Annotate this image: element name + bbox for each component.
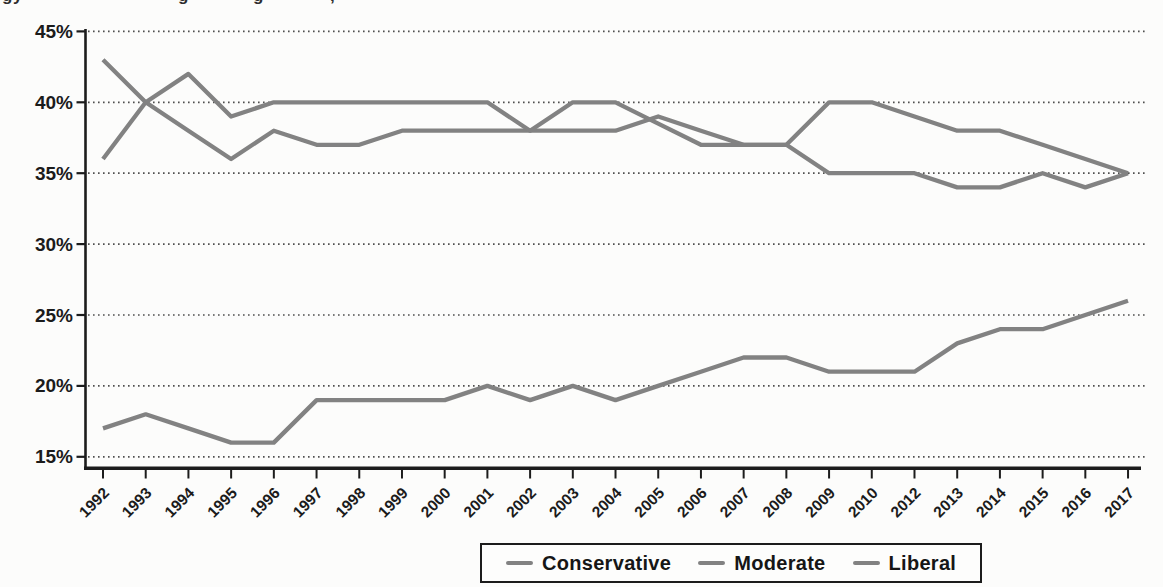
x-tick-label: 2007	[716, 484, 752, 520]
x-tick-label: 2010	[844, 484, 880, 520]
legend-line-swatch-icon	[506, 561, 533, 565]
x-tick-label: 1993	[118, 484, 155, 521]
y-tick-label: 35%	[35, 163, 73, 184]
legend-line-swatch-icon	[853, 561, 880, 565]
ideology-trend-figure: gygg, 45%40%35%30%25%20%15%1992199319941…	[0, 0, 1163, 587]
x-tick-label: 2016	[1058, 484, 1095, 521]
y-tick-label: 30%	[35, 234, 73, 255]
x-tick-label: 1999	[375, 484, 412, 521]
chart-legend: ConservativeModerateLiberal	[480, 543, 982, 583]
y-tick-label: 20%	[35, 375, 73, 396]
y-tick-label: 40%	[35, 92, 73, 113]
x-tick-label: 1996	[247, 484, 284, 521]
x-tick-label: 1995	[204, 484, 241, 521]
line-liberal	[103, 301, 1128, 443]
line-conservative	[103, 102, 1128, 173]
x-tick-label: 2015	[1015, 484, 1052, 521]
x-tick-label: 1998	[332, 484, 369, 521]
x-tick-label: 1994	[161, 484, 198, 521]
x-tick-label: 2001	[460, 484, 497, 521]
y-tick-label: 45%	[35, 21, 73, 42]
legend-item-liberal: Liberal	[853, 552, 957, 575]
legend-item-conservative: Conservative	[506, 552, 671, 575]
x-tick-label: 2004	[588, 484, 625, 521]
legend-label: Conservative	[542, 552, 671, 575]
legend-item-moderate: Moderate	[698, 552, 825, 575]
x-tick-label: 2013	[930, 484, 967, 521]
x-tick-label: 2000	[417, 484, 453, 520]
x-tick-label: 2005	[631, 484, 668, 521]
legend-label: Liberal	[889, 552, 957, 575]
x-tick-label: 2009	[802, 484, 839, 521]
x-tick-label: 2002	[503, 484, 539, 520]
x-tick-label: 2014	[973, 484, 1010, 521]
x-tick-label: 2008	[759, 484, 796, 521]
x-tick-label: 2006	[674, 484, 711, 521]
legend-label: Moderate	[734, 552, 825, 575]
y-tick-label: 25%	[35, 305, 73, 326]
x-tick-label: 1997	[289, 484, 325, 520]
y-tick-label: 15%	[35, 446, 73, 467]
line-moderate	[103, 60, 1128, 188]
x-tick-label: 2017	[1101, 484, 1137, 520]
x-tick-label: 2003	[546, 484, 583, 521]
x-tick-label: 1992	[76, 484, 112, 520]
legend-line-swatch-icon	[698, 561, 725, 565]
ideology-line-chart: 45%40%35%30%25%20%15%1992199319941995199…	[0, 0, 1163, 540]
x-tick-label: 2012	[887, 484, 923, 520]
